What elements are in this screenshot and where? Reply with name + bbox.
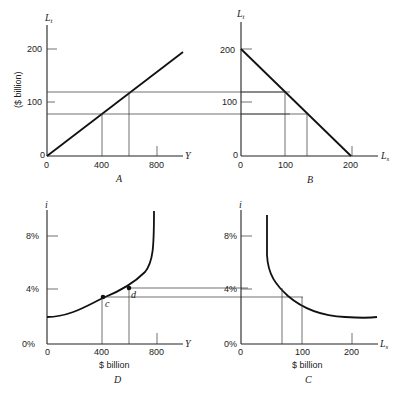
point-d-label: d: [131, 289, 137, 300]
panel-c-xtick-200: 200: [344, 347, 359, 357]
panel-b-ytick-200: 200: [220, 45, 235, 55]
panel-c-y-label: i: [239, 199, 242, 210]
panel-a-xtick-400: 400: [94, 160, 109, 170]
liquidity-diagram: Lt 200 100 0 0 400 800 Y ($ billion) A L…: [0, 0, 406, 400]
panel-b-ytick-0: 0: [233, 150, 238, 160]
panel-a-ytick-0: 0: [40, 150, 45, 160]
panel-a-x-label: Y: [185, 150, 192, 161]
panel-c: i 8% 4% 0% 0 100 200 Ls $ billion C: [224, 199, 389, 385]
panel-b-y-label: Lt: [236, 8, 246, 21]
panel-b-caption: B: [307, 174, 313, 185]
panel-a-caption: A: [115, 173, 123, 184]
panel-d-caption: D: [113, 374, 122, 385]
panel-b-xtick-200: 200: [343, 160, 358, 170]
panel-a-ytick-200: 200: [27, 44, 42, 54]
panel-d-xtick-0: 0: [45, 347, 50, 357]
panel-b-ytick-100: 100: [222, 97, 237, 107]
panel-c-ytick-8: 8%: [224, 231, 237, 241]
panel-d-x-label: Y: [185, 338, 192, 349]
panel-b-line: [241, 49, 351, 156]
panel-a: Lt 200 100 0 0 400 800 Y ($ billion) A: [13, 12, 290, 184]
panel-c-ytick-4: 4%: [224, 284, 237, 294]
panel-d-y-label: i: [45, 199, 48, 210]
panel-c-unit-label: $ billion: [292, 360, 323, 370]
panel-d-curve: [47, 211, 154, 317]
panel-a-y-label: Lt: [44, 12, 54, 25]
panel-b-xtick-0: 0: [238, 160, 243, 170]
panel-c-xtick-0: 0: [238, 347, 243, 357]
panel-d-ytick-0: 0%: [22, 339, 35, 349]
point-c-label: c: [105, 298, 110, 309]
panel-b-x-label: Ls: [380, 150, 390, 163]
panel-d-ytick-4: 4%: [26, 284, 39, 294]
panel-a-line: [47, 52, 183, 156]
panel-a-xtick-0: 0: [44, 160, 49, 170]
panel-c-curve: [267, 215, 377, 318]
panel-d-unit-label: $ billion: [99, 360, 130, 370]
panel-a-ytick-100: 100: [27, 97, 42, 107]
panel-c-ytick-0: 0%: [224, 339, 237, 349]
panel-a-xtick-800: 800: [149, 160, 164, 170]
panel-b-xtick-100: 100: [278, 160, 293, 170]
panel-d: c d i 8% 4% 0% 0 400 800 Y $ billion D: [22, 199, 303, 385]
panel-b: Lt 200 100 0 0 100 200 Ls B: [220, 8, 390, 185]
panel-d-ytick-8: 8%: [26, 231, 39, 241]
panel-c-caption: C: [305, 374, 312, 385]
panel-c-xtick-100: 100: [295, 347, 310, 357]
panel-a-unit-label: ($ billion): [13, 71, 23, 108]
panel-d-xtick-400: 400: [94, 347, 109, 357]
panel-c-x-label: Ls: [379, 338, 389, 351]
panel-d-xtick-800: 800: [149, 347, 164, 357]
